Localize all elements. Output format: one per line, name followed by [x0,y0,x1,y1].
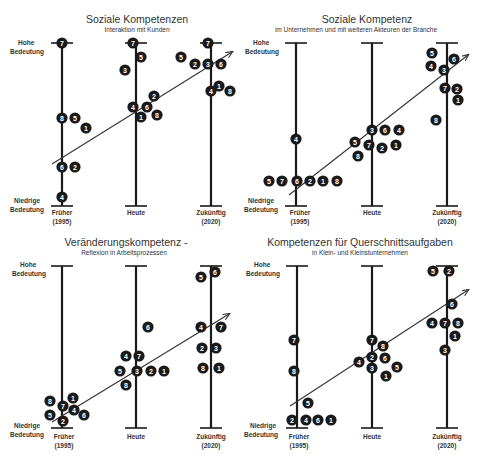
marker-6: 6 [379,124,390,135]
marker-4: 4 [290,133,301,144]
svg-text:3: 3 [135,368,139,375]
marker-6: 6 [56,161,67,172]
svg-text:8: 8 [155,112,159,119]
axis-label-future: Zukünftig [432,433,462,441]
svg-text:6: 6 [82,412,86,419]
marker-2: 2 [443,265,454,276]
svg-text:4: 4 [294,136,298,143]
marker-5: 5 [349,136,360,147]
marker-4: 4 [195,321,206,332]
marker-6: 6 [142,321,153,332]
svg-text:1: 1 [394,142,398,149]
svg-text:1: 1 [456,97,460,104]
panel-title: Soziale Kompetenzen [86,13,188,25]
panel-social-industry: Soziale Kompetenz im Unternehmen und mit… [244,13,468,226]
marker-3: 3 [366,124,377,135]
panel-social-customer: Soziale Kompetenzen Interaktion mit Kund… [10,13,236,226]
axis-label-past-year: (1995) [291,218,310,226]
marker-7: 7 [215,321,226,332]
low-label: Niedrige [248,197,274,205]
marker-3: 3 [439,344,450,355]
low-label: Niedrige [14,422,40,430]
marker-8: 8 [56,112,67,123]
panel-title: Kompetenzen für Querschnittsaufgaben [267,236,453,248]
svg-text:1: 1 [84,125,88,132]
axis-label-past-year: (1995) [55,442,74,450]
high-label: Hohe [20,261,37,268]
svg-text:7: 7 [443,85,447,92]
marker-5: 5 [44,409,55,420]
marker-1: 1 [449,330,460,341]
marker-6: 6 [209,266,220,277]
axis-label-past: Früher [290,209,311,216]
marker-2: 2 [69,161,80,172]
svg-text:4: 4 [430,320,434,327]
svg-text:7: 7 [280,178,284,185]
svg-text:1: 1 [217,365,221,372]
svg-text:4: 4 [131,104,135,111]
svg-text:3: 3 [206,61,210,68]
marker-1: 1 [67,392,78,403]
marker-5: 5 [391,361,402,372]
marker-7: 7 [439,82,450,93]
svg-text:1: 1 [384,373,388,380]
svg-text:8: 8 [381,343,385,350]
marker-5: 5 [135,51,146,62]
marker-1: 1 [380,370,391,381]
marker-1: 1 [452,94,463,105]
svg-text:1: 1 [139,114,143,121]
axis-label-today: Heute [363,209,381,216]
marker-8: 8 [352,150,363,161]
svg-text:8: 8 [124,382,128,389]
marker-2: 2 [189,58,200,69]
low-label: Niedrige [14,197,40,205]
svg-text:7: 7 [137,353,141,360]
panel-subtitle: Interaktion mit Kunden [104,26,169,33]
marker-2: 2 [304,175,315,186]
svg-text:5: 5 [118,368,122,375]
svg-text:4: 4 [124,353,128,360]
svg-text:2: 2 [290,417,294,424]
axis-label-today: Heute [127,209,145,216]
svg-text:1: 1 [453,333,457,340]
panel-title: Soziale Kompetenz [322,13,412,25]
marker-4: 4 [300,414,311,425]
svg-text:4: 4 [397,127,401,134]
axis-today [125,266,147,428]
svg-text:2: 2 [308,178,312,185]
marker-7: 7 [439,317,450,328]
marker-7: 7 [363,139,374,150]
svg-text:7: 7 [61,403,65,410]
marker-2: 2 [366,351,377,362]
marker-3: 3 [131,365,142,376]
svg-text:4: 4 [72,407,76,414]
low-label-2: Bedeutung [244,206,278,214]
marker-1: 1 [390,139,401,150]
marker-6: 6 [312,414,323,425]
svg-text:1: 1 [329,417,333,424]
marker-6: 6 [215,58,226,69]
high-label-2: Bedeutung [246,270,280,278]
axis-label-future-year: (2020) [202,218,221,226]
svg-text:6: 6 [213,269,217,276]
axis-label-today: Heute [363,433,381,440]
svg-text:5: 5 [267,178,271,185]
svg-text:6: 6 [145,104,149,111]
marker-1: 1 [158,365,169,376]
marker-2: 2 [57,415,68,426]
svg-text:6: 6 [316,417,320,424]
svg-text:7: 7 [292,337,296,344]
axis-label-future: Zukünftig [432,209,462,217]
marker-4: 4 [393,124,404,135]
marker-8: 8 [452,317,463,328]
panel-subtitle: im Unternehmen und mit weiteren Akteuren… [275,26,438,33]
marker-1: 1 [213,80,224,91]
axis-label-past: Früher [54,433,75,440]
svg-text:4: 4 [304,417,308,424]
marker-6: 6 [78,409,89,420]
marker-7: 7 [202,37,213,48]
marker-6: 6 [141,101,152,112]
marker-8: 8 [331,175,342,186]
svg-text:2: 2 [149,368,153,375]
svg-text:5: 5 [48,412,52,419]
